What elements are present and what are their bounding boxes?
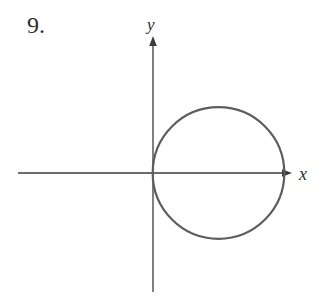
coordinate-plane-figure: 9. x y bbox=[0, 0, 324, 297]
y-axis-arrowhead-icon bbox=[149, 36, 157, 46]
problem-number: 9. bbox=[27, 12, 45, 38]
x-axis-label: x bbox=[298, 164, 307, 184]
y-axis-label: y bbox=[145, 15, 155, 34]
figure-page: { "figure": { "problem_number": "9.", "b… bbox=[0, 0, 324, 297]
